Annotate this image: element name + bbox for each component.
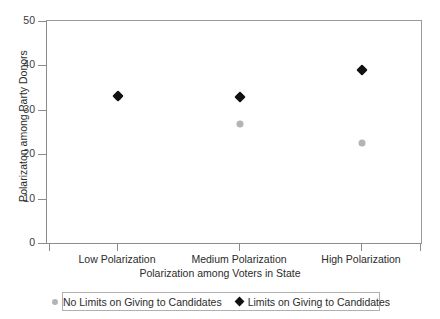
y-axis-tick [38, 243, 46, 244]
x-axis-tick [239, 244, 240, 251]
y-axis-tick [38, 199, 46, 200]
y-axis-tick-label: 40 [0, 59, 35, 69]
data-point-circle [359, 140, 366, 147]
legend-label: No Limits on Giving to Candidates [63, 296, 222, 308]
x-axis-tick-label: Low Polarization [78, 253, 155, 265]
y-axis-tick-label: 50 [0, 15, 35, 25]
chart-figure: Polarizaton among Party Donors 010203040… [0, 0, 440, 319]
y-axis-tick-label: 30 [0, 104, 35, 114]
data-point-circle [237, 121, 244, 128]
data-point-diamond [112, 90, 123, 101]
x-axis-tick-label: Medium Polarization [191, 253, 286, 265]
y-axis-tick-label: 0 [0, 237, 35, 247]
legend-circle-icon [52, 299, 58, 305]
y-axis-tick [38, 154, 46, 155]
x-axis-tick [117, 244, 118, 251]
x-axis-title: Polarization among Voters in State [0, 267, 440, 279]
x-axis-edge-tick [49, 244, 50, 251]
y-axis-tick-label: 20 [0, 148, 35, 158]
legend-label: Limits on Giving to Candidates [248, 296, 390, 308]
legend-diamond-icon [234, 297, 244, 307]
plot-area [46, 20, 422, 244]
y-axis-tick-label: 10 [0, 193, 35, 203]
y-axis-tick [38, 21, 46, 22]
y-axis-tick [38, 110, 46, 111]
legend-entry: Limits on Giving to Candidates [236, 296, 390, 308]
data-point-diamond [234, 91, 245, 102]
legend-entry: No Limits on Giving to Candidates [52, 296, 222, 308]
x-axis-edge-tick [420, 244, 421, 251]
y-axis-tick [38, 65, 46, 66]
x-axis-tick-label: High Polarization [321, 253, 400, 265]
chart-legend: No Limits on Giving to CandidatesLimits … [62, 292, 380, 311]
data-point-diamond [356, 64, 367, 75]
x-axis-tick [361, 244, 362, 251]
